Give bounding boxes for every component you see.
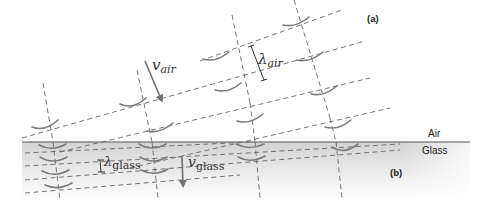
v-glass-label: vglass — [188, 154, 224, 173]
v-glass-sub: glass — [196, 160, 224, 173]
lambda-air-label: λair — [258, 50, 283, 70]
lambda-glass-base: λ — [104, 154, 112, 169]
panel-a-label: (a) — [367, 13, 379, 24]
medium-glass-label: Glass — [422, 145, 448, 156]
lambda-air-sub: air — [268, 57, 283, 70]
v-air-label: vair — [152, 56, 176, 76]
v-air-sub: air — [160, 63, 175, 76]
medium-air-label: Air — [428, 128, 440, 139]
lambda-air-base: λ — [258, 50, 268, 68]
panel-b-label: (b) — [390, 167, 402, 178]
v-glass-arrow — [182, 157, 183, 184]
lambda-glass-label: λglass — [104, 154, 141, 172]
diagram-graphics — [0, 0, 477, 206]
lambda-glass-sub: glass — [112, 159, 140, 172]
v-glass-base: v — [188, 154, 196, 170]
refraction-diagram: (a) (b) Air Glass vair λair λglass vglas… — [0, 0, 477, 206]
